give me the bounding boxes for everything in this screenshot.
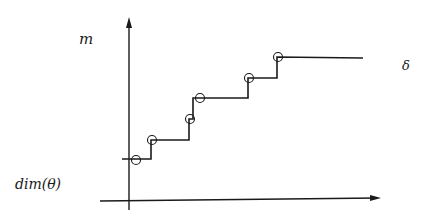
y-axis-arrowhead-icon <box>126 17 132 28</box>
plot-canvas <box>0 0 422 224</box>
marked-points <box>132 53 283 165</box>
x-axis-line <box>100 198 377 201</box>
open-circle-marker-icon <box>132 156 141 165</box>
step-function-line <box>122 57 363 159</box>
x-axis-arrowhead-icon <box>370 195 381 201</box>
y-axis-label: m <box>79 30 93 48</box>
step-curve <box>122 57 363 159</box>
step-function-diagram: m dim(θ) δ <box>0 0 422 224</box>
x-axis-label: δ <box>402 58 410 73</box>
dim-theta-label: dim(θ) <box>15 176 61 192</box>
axes <box>100 17 381 210</box>
